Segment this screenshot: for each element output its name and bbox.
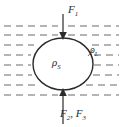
- force-label-f1-subscript: 1: [75, 10, 78, 17]
- force-label-f1: F1: [68, 4, 78, 18]
- density-solid-subscript: S: [57, 63, 60, 70]
- force-label-f2-f3: F2, F3: [60, 108, 86, 122]
- buoyancy-free-body-diagram: F1 F2, F3 ρS ρL: [0, 0, 122, 127]
- sphere-body: [33, 38, 93, 90]
- density-liquid-subscript: L: [95, 50, 98, 57]
- density-label-liquid: ρL: [90, 45, 98, 57]
- force-label-f2-symbol: F: [60, 107, 67, 119]
- force-label-f1-symbol: F: [68, 3, 75, 15]
- force-label-f3-subscript: 3: [82, 114, 85, 121]
- density-label-solid: ρS: [52, 57, 61, 71]
